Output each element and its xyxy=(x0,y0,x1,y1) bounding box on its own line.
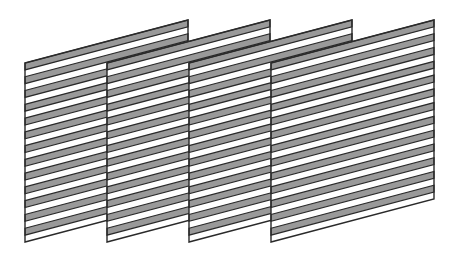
diagram-canvas xyxy=(0,0,456,262)
striped-panels-diagram xyxy=(0,0,456,262)
